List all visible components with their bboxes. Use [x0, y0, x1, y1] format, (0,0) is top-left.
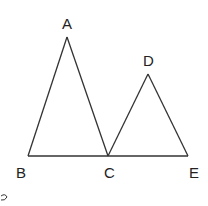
label-e: E [189, 164, 199, 181]
segment-de [148, 74, 188, 156]
geometry-diagram: A D B C E [0, 0, 208, 206]
scan-artifact [1, 195, 7, 200]
label-d: D [143, 52, 154, 69]
diagram-svg: A D B C E [0, 0, 208, 206]
segment-ac [67, 37, 108, 156]
segment-cd [108, 74, 148, 156]
segment-ba [28, 37, 67, 156]
label-c: C [104, 164, 115, 181]
label-a: A [62, 15, 72, 32]
label-b: B [16, 164, 26, 181]
